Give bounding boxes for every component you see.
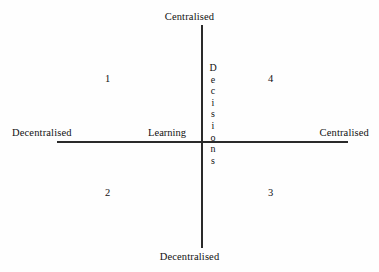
vertical-axis-name-char: s bbox=[206, 155, 220, 167]
vertical-axis-name-char: i bbox=[206, 120, 220, 132]
horizontal-axis-name-label: Learning bbox=[148, 128, 186, 139]
quadrant-label-top-left: 1 bbox=[105, 74, 110, 85]
vertical-axis-bottom-pole-label: Decentralised bbox=[0, 252, 379, 263]
vertical-axis-line bbox=[201, 25, 203, 248]
horizontal-axis-right-pole-label: Centralised bbox=[320, 128, 369, 139]
quadrant-label-top-right: 4 bbox=[268, 74, 273, 85]
vertical-axis-name-char: i bbox=[206, 97, 220, 109]
vertical-axis-name-char: e bbox=[206, 74, 220, 86]
vertical-axis-top-pole-label: Centralised bbox=[0, 12, 379, 23]
quadrant-matrix-diagram: Centralised Decentralised Decentralised … bbox=[0, 0, 379, 272]
vertical-axis-name-char: n bbox=[206, 143, 220, 155]
quadrant-label-bottom-right: 3 bbox=[268, 188, 273, 199]
vertical-axis-name-char: o bbox=[206, 132, 220, 144]
vertical-axis-name-char: D bbox=[206, 62, 220, 74]
vertical-axis-name-char: s bbox=[206, 108, 220, 120]
vertical-axis-name-char: c bbox=[206, 85, 220, 97]
vertical-axis-name-label: D e c i s i o n s bbox=[206, 62, 220, 166]
quadrant-label-bottom-left: 2 bbox=[105, 188, 110, 199]
horizontal-axis-left-pole-label: Decentralised bbox=[12, 128, 72, 139]
